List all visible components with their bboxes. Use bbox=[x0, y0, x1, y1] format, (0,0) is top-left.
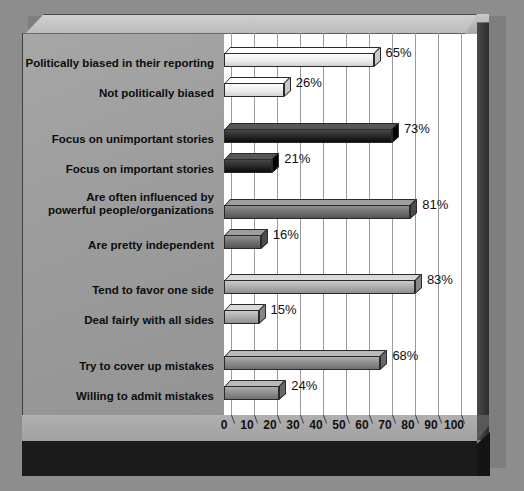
bar-value-label: 24% bbox=[291, 378, 317, 393]
category-label-line: Are often influenced by bbox=[22, 191, 214, 204]
bar-focus-on-important-stories bbox=[224, 153, 272, 167]
gridline bbox=[438, 33, 439, 415]
bar-value-label: 26% bbox=[296, 75, 322, 90]
gridline bbox=[461, 33, 462, 415]
category-label-are-pretty-independent: Are pretty independent bbox=[22, 239, 218, 252]
bar-focus-on-unimportant-stories bbox=[224, 123, 392, 137]
chart-container: 65%26%73%21%81%16%83%15%68%24% Political… bbox=[0, 0, 524, 491]
category-label-are-often-influenced-by-powerful-people-organizations: Are often influenced bypowerful people/o… bbox=[22, 191, 218, 217]
category-label-line: Are pretty independent bbox=[22, 239, 214, 252]
bar-value-label: 81% bbox=[422, 197, 448, 212]
category-label-line: Focus on important stories bbox=[22, 163, 214, 176]
bar-value-label: 68% bbox=[392, 348, 418, 363]
bar-face bbox=[224, 280, 415, 294]
bar-face bbox=[224, 129, 392, 143]
category-label-focus-on-unimportant-stories: Focus on unimportant stories bbox=[22, 133, 218, 146]
category-label-line: Politically biased in their reporting bbox=[22, 57, 214, 70]
category-label-line: Try to cover up mistakes bbox=[22, 360, 214, 373]
bar-value-label: 65% bbox=[386, 45, 412, 60]
bar-are-often-influenced-by-powerful-people-organizations bbox=[224, 199, 410, 213]
bar-tend-to-favor-one-side bbox=[224, 274, 415, 288]
category-label-willing-to-admit-mistakes: Willing to admit mistakes bbox=[22, 390, 218, 403]
bar-value-label: 73% bbox=[404, 121, 430, 136]
category-label-tend-to-favor-one-side: Tend to favor one side bbox=[22, 284, 218, 297]
bar-value-label: 21% bbox=[284, 151, 310, 166]
bar-not-politically-biased bbox=[224, 77, 284, 91]
bar-face bbox=[224, 53, 374, 67]
bar-willing-to-admit-mistakes bbox=[224, 380, 279, 394]
category-label-line: Deal fairly with all sides bbox=[22, 314, 214, 327]
bar-face bbox=[224, 159, 272, 173]
bar-value-label: 83% bbox=[427, 272, 453, 287]
bar-face bbox=[224, 386, 279, 400]
category-label-deal-fairly-with-all-sides: Deal fairly with all sides bbox=[22, 314, 218, 327]
category-label-line: Willing to admit mistakes bbox=[22, 390, 214, 403]
bar-politically-biased-in-their-reporting bbox=[224, 47, 374, 61]
category-label-line: Focus on unimportant stories bbox=[22, 133, 214, 146]
category-label-focus-on-important-stories: Focus on important stories bbox=[22, 163, 218, 176]
bar-face bbox=[224, 235, 261, 249]
bar-try-to-cover-up-mistakes bbox=[224, 350, 380, 364]
category-label-politically-biased-in-their-reporting: Politically biased in their reporting bbox=[22, 57, 218, 70]
bar-are-pretty-independent bbox=[224, 229, 261, 243]
category-label-not-politically-biased: Not politically biased bbox=[22, 87, 218, 100]
bar-value-label: 16% bbox=[273, 227, 299, 242]
category-label-line: powerful people/organizations bbox=[22, 204, 214, 217]
bar-face bbox=[224, 310, 259, 324]
bar-face bbox=[224, 205, 410, 219]
bar-face bbox=[224, 356, 380, 370]
bar-deal-fairly-with-all-sides bbox=[224, 304, 259, 318]
bar-face bbox=[224, 83, 284, 97]
x-tick-label: 100 bbox=[440, 418, 468, 432]
right-side-wall bbox=[477, 22, 489, 440]
bar-value-label: 15% bbox=[271, 302, 297, 317]
category-label-line: Tend to favor one side bbox=[22, 284, 214, 297]
base-plinth: Percent bbox=[22, 441, 477, 476]
category-label-try-to-cover-up-mistakes: Try to cover up mistakes bbox=[22, 360, 218, 373]
category-label-line: Not politically biased bbox=[22, 87, 214, 100]
